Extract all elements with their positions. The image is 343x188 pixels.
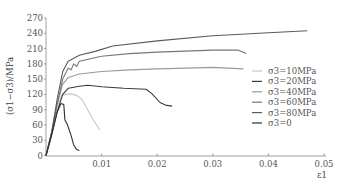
legend-label: σ3=60MPa [268, 97, 316, 107]
y-ticks: 0306090120150180210240270 [27, 13, 46, 161]
x-tick-label: 0.01 [92, 159, 111, 169]
legend-label: σ3=10MPa [268, 66, 316, 76]
x-axis-title: ε1 [317, 170, 327, 180]
y-tick-label: 60 [32, 120, 43, 130]
x-tick-label: 0.03 [203, 159, 222, 169]
y-tick-label: 240 [27, 28, 43, 38]
x-tick-label: 0.05 [315, 159, 334, 169]
stress-strain-chart: 0306090120150180210240270 0.010.020.030.… [0, 0, 343, 188]
series-line [46, 50, 246, 155]
y-tick-label: 180 [27, 59, 43, 69]
legend-label: σ3=0 [268, 118, 292, 128]
y-tick-label: 30 [32, 135, 43, 145]
x-tick-label: 0.04 [259, 159, 278, 169]
y-tick-label: 210 [27, 44, 43, 54]
y-tick-label: 0 [38, 151, 43, 161]
legend-label: σ3=80MPa [268, 108, 316, 118]
legend-label: σ3=40MPa [268, 87, 316, 97]
y-tick-label: 270 [27, 13, 43, 23]
y-tick-label: 150 [27, 74, 43, 84]
legend-label: σ3=20MPa [268, 76, 316, 86]
legend: σ3=10MPaσ3=20MPaσ3=40MPaσ3=60MPaσ3=80MPa… [252, 66, 316, 128]
series-line [46, 104, 79, 156]
y-axis-title: (σ1−σ3)/MPa [5, 57, 15, 115]
y-tick-label: 120 [27, 89, 43, 99]
x-tick-label: 0.02 [148, 159, 167, 169]
series-line [46, 67, 243, 155]
y-tick-label: 90 [32, 105, 43, 115]
